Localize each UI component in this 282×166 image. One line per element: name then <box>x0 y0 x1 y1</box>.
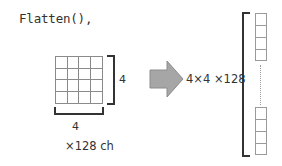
output-vector-top <box>255 13 267 61</box>
width-bracket-icon <box>54 106 104 116</box>
channels-label: ×128 ch <box>65 139 114 153</box>
flatten-code-label: Flatten(), <box>19 11 92 26</box>
output-size-label: 4×4 ×128 <box>186 72 246 86</box>
output-bracket-icon <box>240 12 252 158</box>
width-label: 4 <box>72 120 79 133</box>
height-label: 4 <box>119 73 126 86</box>
output-vector-bottom <box>255 107 267 155</box>
right-arrow-icon <box>149 60 185 98</box>
input-feature-map-grid <box>55 56 103 104</box>
ellipsis-dots <box>260 65 263 105</box>
height-bracket-icon <box>105 55 117 105</box>
